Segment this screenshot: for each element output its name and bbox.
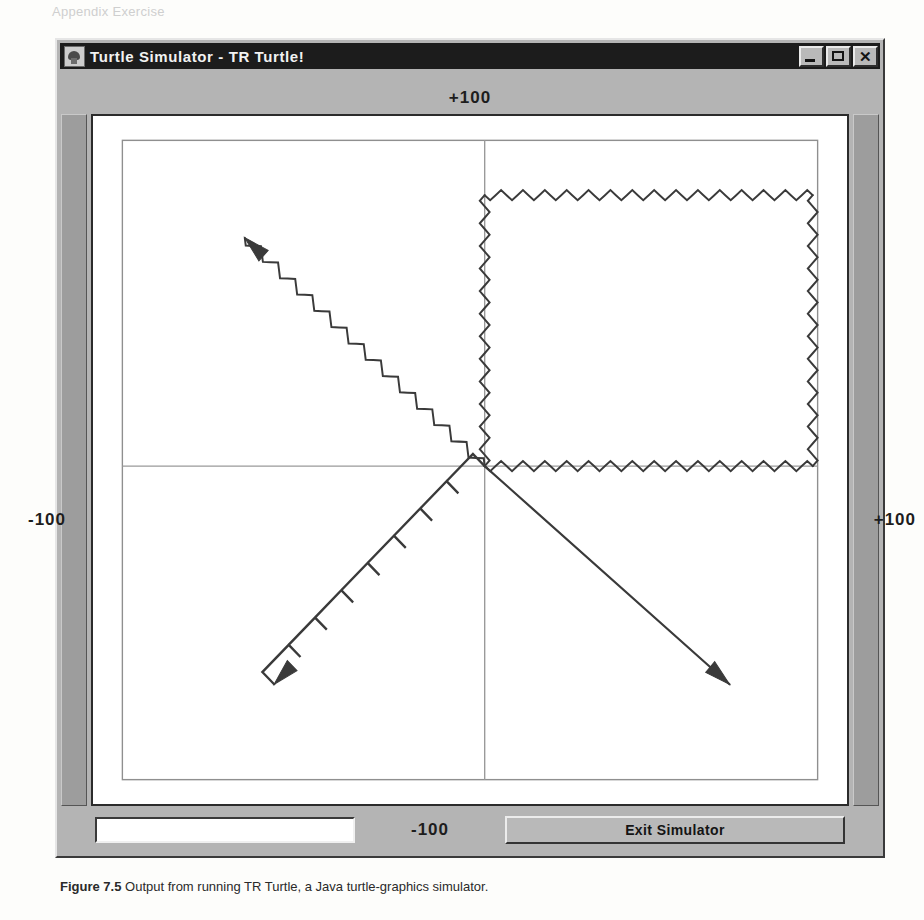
- turtle-simulator-window: Turtle Simulator - TR Turtle! ✕ +100 -10…: [55, 38, 885, 858]
- exit-simulator-button[interactable]: Exit Simulator: [505, 816, 845, 844]
- window-bottom-bar: -100 Exit Simulator: [61, 808, 879, 852]
- left-rail: -100: [61, 114, 87, 806]
- axis-label-top: +100: [57, 88, 883, 108]
- bleed-text-a: Appendix Exercise: [52, 4, 165, 19]
- turtle-canvas[interactable]: [93, 116, 847, 804]
- right-rail: +100: [853, 114, 879, 806]
- turtle-drawing: [93, 116, 847, 804]
- axis-label-left: -100: [28, 510, 66, 530]
- close-icon[interactable]: ✕: [853, 46, 878, 67]
- axis-label-right: +100: [874, 510, 916, 530]
- turtle-app-icon: [64, 46, 85, 67]
- axis-label-bottom: -100: [355, 820, 505, 840]
- figure-caption: Figure 7.5 Output from running TR Turtle…: [60, 878, 860, 896]
- command-input[interactable]: [95, 817, 355, 843]
- minimize-icon[interactable]: [799, 46, 824, 67]
- window-titlebar[interactable]: Turtle Simulator - TR Turtle! ✕: [60, 43, 880, 69]
- turtle-canvas-frame: [91, 114, 849, 806]
- figure-number: Figure 7.5: [60, 879, 121, 894]
- page-root: Appendix Exercise G TR S V Turtle Simula…: [0, 0, 924, 920]
- maximize-icon[interactable]: [826, 46, 851, 67]
- window-title: Turtle Simulator - TR Turtle!: [90, 48, 797, 65]
- figure-caption-text: Output from running TR Turtle, a Java tu…: [125, 879, 488, 894]
